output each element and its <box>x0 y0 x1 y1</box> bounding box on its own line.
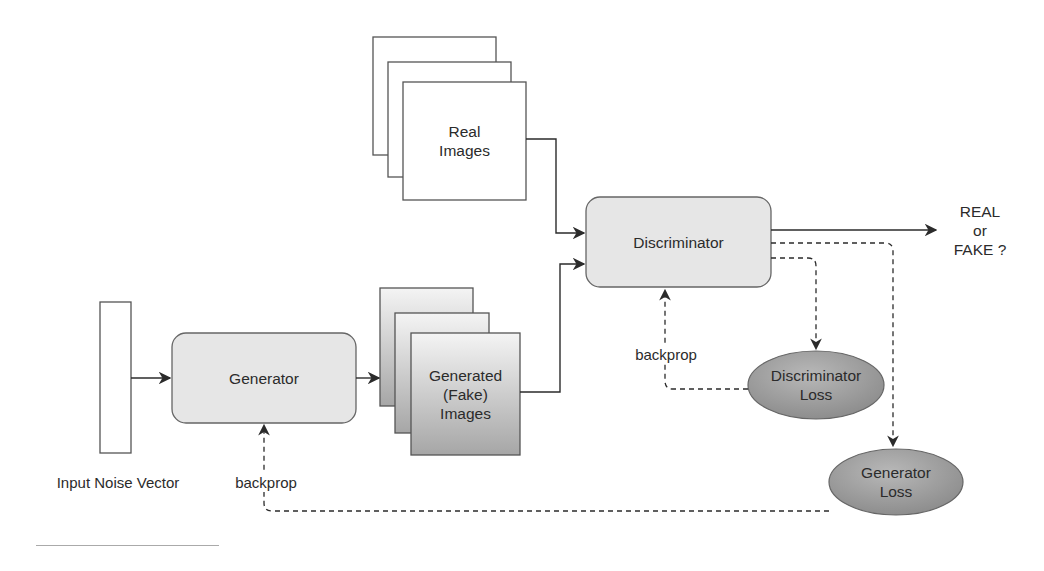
generator-label: Generator <box>172 333 356 423</box>
discriminator-label: Discriminator <box>586 197 771 287</box>
real-images-line1: Real <box>449 122 481 141</box>
output-label: REAL or FAKE ? <box>935 200 1025 260</box>
discriminator-loss-line2: Loss <box>800 385 833 404</box>
footer-rule <box>36 545 219 546</box>
edge-fake-to-discriminator <box>520 264 584 392</box>
edge-gen-loss-backprop <box>264 425 829 511</box>
edge-disc-loss-backprop <box>665 290 748 389</box>
edge-real-to-discriminator <box>526 139 584 233</box>
real-images-line2: Images <box>439 141 490 160</box>
generated-images-line2: (Fake) <box>443 385 488 404</box>
edge-discriminator-to-disc-loss <box>771 258 816 349</box>
output-line3: FAKE ? <box>954 240 1007 259</box>
output-line2: or <box>973 221 987 240</box>
generated-images-label: Generated (Fake) Images <box>411 348 520 440</box>
output-line1: REAL <box>960 202 1001 221</box>
generator-loss-line2: Loss <box>880 482 913 501</box>
discriminator-loss-label: Discriminator Loss <box>748 351 884 419</box>
generated-images-line1: Generated <box>429 366 502 385</box>
generator-loss-line1: Generator <box>861 463 931 482</box>
noise-vector-label: Input Noise Vector <box>38 473 198 492</box>
generator-loss-label: Generator Loss <box>829 449 963 515</box>
noise-vector-box <box>100 302 131 453</box>
generated-images-line3: Images <box>440 404 491 423</box>
generator-backprop-label: backprop <box>228 473 304 492</box>
discriminator-loss-line1: Discriminator <box>771 366 861 385</box>
real-images-label: Real Images <box>403 82 526 200</box>
discriminator-backprop-label: backprop <box>628 345 704 364</box>
